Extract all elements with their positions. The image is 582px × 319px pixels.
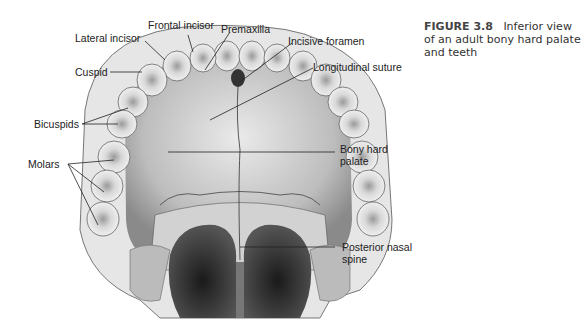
label-lateral-incisor: Lateral incisor: [75, 32, 140, 44]
nasal-opening-right: [244, 225, 311, 318]
nasal-opening-left: [169, 225, 236, 318]
label-bony-hard-palate-line1: Bony hard: [340, 143, 388, 155]
label-longitudinal-suture: Longitudinal suture: [313, 61, 402, 73]
label-frontal-incisor: Frontal incisor: [148, 19, 214, 31]
label-posterior-nasal-spine-line2: spine: [342, 253, 367, 265]
label-cuspid: Cuspid: [75, 66, 108, 78]
label-bony-hard-palate-line2: palate: [340, 155, 369, 167]
label-bony-hard-palate: Bony hard palate: [340, 143, 388, 167]
label-premaxilla: Premaxilla: [221, 23, 270, 35]
incisive-foramen: [231, 69, 245, 87]
figure-caption: FIGURE 3.8 Inferior view of an adult bon…: [424, 20, 582, 59]
label-incisive-foramen: Incisive foramen: [288, 35, 364, 47]
label-bicuspids: Bicuspids: [34, 118, 79, 130]
figure-number: FIGURE 3.8: [424, 20, 493, 33]
label-posterior-nasal-spine: Posterior nasal spine: [342, 241, 412, 265]
label-molars: Molars: [28, 158, 60, 170]
label-posterior-nasal-spine-line1: Posterior nasal: [342, 241, 412, 253]
